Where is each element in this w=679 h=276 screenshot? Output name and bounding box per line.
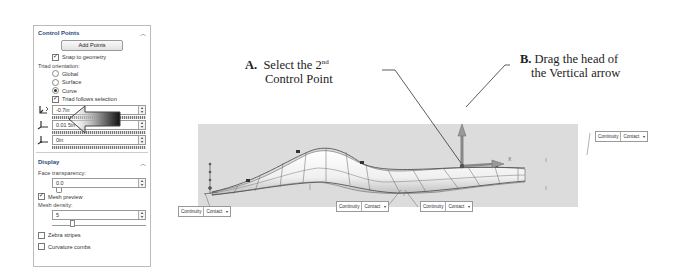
- dropdown-arrow-icon[interactable]: ▾: [643, 132, 645, 141]
- curvature-combs-label: Curvature combs: [48, 244, 91, 250]
- face-transparency-label: Face transparency:: [34, 169, 150, 177]
- triad-follows-selection-label: Triad follows selection: [62, 96, 117, 102]
- curvature-combs-checkbox[interactable]: Curvature combs: [34, 243, 150, 252]
- snap-to-geometry-label: Snap to geometry: [62, 54, 106, 60]
- direction-3-value: 0in: [56, 137, 63, 143]
- callout-a-line1: Select the 2: [263, 58, 321, 72]
- radio-curve-label: Curve: [62, 88, 77, 94]
- zebra-stripes-label: Zebra stripes: [48, 232, 81, 238]
- direction-3-input[interactable]: 0in ▴▾: [52, 135, 146, 145]
- continuity-label: Continuity: [421, 202, 446, 211]
- continuity-dropdown-4[interactable]: Continuity Contact▾: [595, 131, 648, 142]
- dropdown-arrow-icon[interactable]: ▾: [468, 202, 470, 211]
- section-divider: [36, 152, 148, 153]
- control-points-title: Control Points: [38, 30, 79, 36]
- direction-3-slider[interactable]: [52, 146, 146, 149]
- add-points-button[interactable]: Add Points: [61, 40, 123, 51]
- callout-a: A. Select the 2nd Control Point: [245, 55, 333, 86]
- slider-thumb[interactable]: [70, 220, 75, 227]
- mesh-density-value: 5: [56, 212, 59, 218]
- snap-to-geometry-checkbox[interactable]: Snap to geometry: [34, 53, 150, 62]
- radio-global[interactable]: Global: [34, 70, 150, 79]
- callout-b-line2: the Vertical arrow: [520, 66, 620, 80]
- radio-surface-label: Surface: [62, 79, 81, 85]
- annotation-arrow-left-icon: [67, 104, 122, 135]
- checkbox-checked-icon[interactable]: [52, 96, 59, 103]
- mesh-density-slider[interactable]: [52, 220, 146, 226]
- chevron-up-icon[interactable]: ︿: [140, 28, 146, 37]
- triad-x-label: X: [508, 156, 512, 162]
- spinner-icon[interactable]: ▴▾: [138, 106, 145, 114]
- radio-curve[interactable]: Curve: [34, 87, 150, 96]
- callout-a-letter: A.: [245, 58, 257, 72]
- checkbox-icon[interactable]: [38, 232, 45, 239]
- triad-follows-selection-checkbox[interactable]: Triad follows selection: [34, 95, 150, 104]
- face-transparency-input[interactable]: 0.0 ▴▾: [52, 178, 146, 188]
- continuity-dropdown-2[interactable]: Continuity Contact▾: [336, 201, 389, 212]
- mesh-preview-checkbox[interactable]: Mesh preview: [34, 193, 150, 202]
- chevron-up-icon[interactable]: ︿: [140, 158, 146, 167]
- continuity-value: Contact: [448, 202, 464, 211]
- dropdown-arrow-icon[interactable]: ▾: [384, 202, 386, 211]
- mesh-preview-label: Mesh preview: [48, 194, 83, 200]
- spinner-icon[interactable]: ▴▾: [138, 211, 145, 219]
- callout-a-sup: nd: [322, 58, 329, 66]
- continuity-dropdown-1[interactable]: Continuity Contact▾: [178, 206, 231, 217]
- radio-icon[interactable]: [52, 79, 59, 86]
- property-manager-panel: Control Points ︿ Add Points Snap to geom…: [33, 25, 151, 267]
- continuity-value: Contact: [206, 207, 222, 216]
- radio-icon[interactable]: [52, 70, 59, 77]
- zebra-stripes-checkbox[interactable]: Zebra stripes: [34, 231, 150, 240]
- checkbox-icon[interactable]: [38, 243, 45, 250]
- callout-b-line1: Drag the head of: [535, 52, 619, 66]
- spinner-icon[interactable]: ▴▾: [138, 121, 145, 129]
- spinner-icon[interactable]: ▴▾: [138, 136, 145, 144]
- triad-orientation-label: Triad orientation:: [34, 62, 150, 70]
- callout-a-line2: Control Point: [245, 72, 333, 86]
- callout-b-letter: B.: [520, 52, 531, 66]
- vertical-arrow-handle[interactable]: [458, 124, 504, 168]
- face-transparency-value: 0.0: [56, 180, 64, 186]
- continuity-value: Contact: [623, 132, 639, 141]
- control-points-header[interactable]: Control Points ︿: [34, 26, 150, 39]
- display-title: Display: [38, 159, 59, 165]
- radio-surface[interactable]: Surface: [34, 78, 150, 87]
- dropdown-arrow-icon[interactable]: ▾: [226, 207, 228, 216]
- triad-direction-1-icon: [37, 105, 49, 115]
- continuity-value: Contact: [364, 202, 380, 211]
- triad-direction-2-icon: [37, 120, 49, 130]
- continuity-dropdown-3[interactable]: Continuity Contact▾: [420, 201, 473, 212]
- freeform-surface-mesh: Y X: [198, 124, 578, 207]
- spinner-icon[interactable]: ▴▾: [138, 179, 145, 187]
- radio-selected-icon[interactable]: [52, 87, 59, 94]
- direction-3-row: 0in ▴▾: [34, 135, 150, 146]
- continuity-label: Continuity: [179, 207, 204, 216]
- triad-direction-3-icon: [37, 135, 49, 145]
- continuity-label: Continuity: [596, 132, 621, 141]
- checkbox-checked-icon[interactable]: [38, 193, 45, 200]
- graphics-viewport[interactable]: Y X: [198, 124, 578, 207]
- radio-global-label: Global: [62, 71, 78, 77]
- callout-b: B. Drag the head of the Vertical arrow: [520, 52, 620, 80]
- mesh-density-label: Mesh density:: [34, 201, 150, 209]
- checkbox-checked-icon[interactable]: [52, 54, 59, 61]
- mesh-density-input[interactable]: 5 ▴▾: [52, 210, 146, 220]
- continuity-label: Continuity: [337, 202, 362, 211]
- display-header[interactable]: Display ︿: [34, 156, 150, 169]
